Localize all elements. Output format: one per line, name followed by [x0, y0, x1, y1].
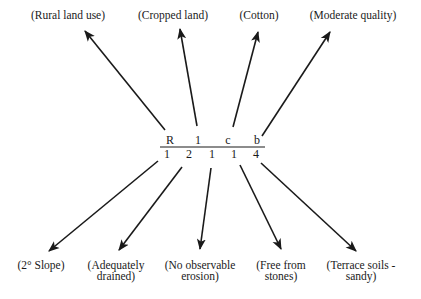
- label-slope: (2° Slope): [17, 260, 64, 271]
- code-denominator-4: 1: [231, 148, 237, 160]
- arrow-cotton: [233, 32, 258, 127]
- code-numerator-c: c: [225, 134, 230, 146]
- label-slope-line1: (2° Slope): [17, 260, 64, 271]
- label-rural-land-use: (Rural land use): [31, 10, 105, 21]
- arrow-stoniness: [240, 165, 281, 249]
- label-cotton: (Cotton): [240, 10, 279, 21]
- code-numerator-1: 1: [195, 134, 201, 146]
- code-denominator-5: 4: [253, 148, 259, 160]
- label-drainage: (Adequately drained): [88, 260, 145, 282]
- label-cropped-land: (Cropped land): [138, 10, 208, 21]
- code-denominator-2: 2: [186, 148, 192, 160]
- code-denominator-3: 1: [209, 148, 215, 160]
- arrow-moderate-quality: [262, 32, 330, 136]
- code-numerator-r: R: [166, 134, 174, 146]
- label-soil-type-line2: sandy): [327, 271, 396, 282]
- label-erosion-line2: erosion): [165, 271, 236, 282]
- code-denominator-1: 1: [164, 148, 170, 160]
- label-erosion: (No observable erosion): [165, 260, 236, 282]
- code-numerator-b: b: [254, 134, 260, 146]
- label-stoniness: (Free from stones): [256, 260, 306, 282]
- label-drainage-line2: drained): [88, 271, 145, 282]
- arrow-rural-land-use: [85, 31, 165, 130]
- label-stoniness-line2: stones): [256, 271, 306, 282]
- label-soil-type: (Terrace soils - sandy): [327, 260, 396, 282]
- arrow-slope: [49, 161, 158, 251]
- arrow-erosion: [200, 168, 211, 249]
- arrow-drainage: [119, 167, 182, 250]
- label-moderate-quality: (Moderate quality): [310, 10, 397, 21]
- arrow-cropped-land: [180, 29, 197, 126]
